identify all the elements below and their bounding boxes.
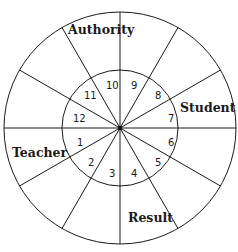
hub-layer bbox=[118, 126, 122, 130]
segment-number-4: 4 bbox=[131, 168, 137, 179]
center-hub-dot bbox=[118, 126, 122, 130]
segment-number-3: 3 bbox=[109, 168, 115, 179]
wheel-diagram: AuthorityStudentTeacherResult 1234567891… bbox=[0, 0, 238, 252]
segment-number-7: 7 bbox=[168, 113, 174, 124]
segment-number-8: 8 bbox=[155, 90, 161, 101]
segment-number-10: 10 bbox=[106, 80, 119, 91]
spoke-line bbox=[20, 70, 120, 128]
segment-number-5: 5 bbox=[155, 157, 161, 168]
inner-numbers: 123456789101112 bbox=[73, 80, 174, 179]
sector-label-student: Student bbox=[180, 100, 236, 115]
segment-number-9: 9 bbox=[131, 80, 137, 91]
segment-number-11: 11 bbox=[84, 90, 97, 101]
outer-labels: AuthorityStudentTeacherResult bbox=[12, 22, 236, 225]
segment-number-1: 1 bbox=[77, 137, 83, 148]
segment-number-6: 6 bbox=[168, 137, 174, 148]
sector-label-teacher: Teacher bbox=[12, 145, 68, 160]
sector-label-result: Result bbox=[128, 210, 173, 225]
sector-label-authority: Authority bbox=[67, 22, 135, 37]
segment-number-12: 12 bbox=[73, 113, 86, 124]
spoke-line bbox=[62, 28, 120, 128]
segment-number-2: 2 bbox=[88, 157, 94, 168]
